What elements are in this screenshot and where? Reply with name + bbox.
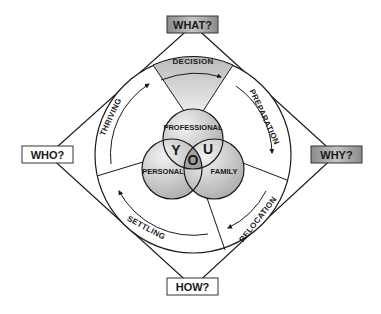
corner-how: HOW?	[167, 278, 218, 295]
corner-how-label: HOW?	[176, 281, 210, 293]
venn-label-professional: PROFESSIONAL	[163, 123, 223, 132]
corner-what: WHAT?	[167, 16, 218, 33]
corner-who: WHO?	[22, 146, 73, 163]
corner-why: WHY?	[311, 146, 362, 163]
corner-who-label: WHO?	[31, 149, 65, 161]
venn-letter-y: Y	[171, 142, 181, 158]
venn-letter-o: O	[188, 152, 199, 168]
corner-what-label: WHAT?	[173, 19, 212, 31]
stage-decision: DECISION	[172, 57, 213, 66]
venn-label-family: FAMILY	[211, 167, 238, 176]
venn-label-personal: PERSONAL	[142, 167, 184, 176]
corner-why-label: WHY?	[320, 149, 353, 161]
venn-letter-u: U	[203, 141, 213, 157]
relocation-cycle-diagram: DECISION PREPARATION RELOCATION SETTLING…	[0, 0, 381, 314]
